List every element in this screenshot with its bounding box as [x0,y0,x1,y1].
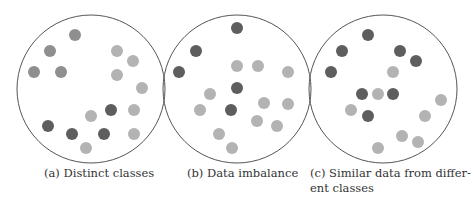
data-point-light [282,98,294,110]
data-point-dark [362,29,374,41]
data-point-dark [362,110,374,122]
data-point-light [372,88,384,100]
caption-c-line-2: ent classes [310,181,471,196]
data-point-light [111,69,123,81]
data-point-dark [387,88,399,100]
data-point-light [282,66,294,78]
data-point-light [251,115,263,127]
data-point-light [435,94,447,106]
figure-canvas [0,0,474,170]
data-point-light [396,130,408,142]
boundary-circle [309,15,457,163]
data-point-medium [28,66,40,78]
data-point-dark [98,128,110,140]
data-point-light [258,97,270,109]
caption-c: (c) Similar data from differ- ent classe… [310,166,471,196]
data-point-light [252,60,264,72]
data-point-dark [231,82,243,94]
data-point-light [271,120,283,132]
data-point-light [345,104,357,116]
data-point-dark [105,104,117,116]
data-point-dark [394,45,406,57]
data-point-light [226,142,238,154]
data-point-medium [55,66,67,78]
data-point-dark [336,45,348,57]
data-point-medium [44,45,56,57]
data-point-medium [69,29,81,41]
data-point-dark [173,66,185,78]
data-point-light [85,110,97,122]
data-point-light [194,104,206,116]
data-point-light [231,60,243,72]
data-point-dark [325,66,337,78]
caption-b: (b) Data imbalance [187,166,298,181]
data-point-light [372,142,384,154]
data-point-dark [225,104,237,116]
data-point-dark [356,88,368,100]
data-point-light [128,128,140,140]
data-point-light [213,128,225,140]
data-point-light [136,82,148,94]
data-point-dark [190,45,202,57]
data-point-dark [66,128,78,140]
panel-c [309,15,457,163]
data-point-dark [42,120,54,132]
data-point-light [111,45,123,57]
caption-a: (a) Distinct classes [44,166,154,181]
data-point-light [204,88,216,100]
data-point-light [419,110,431,122]
data-point-dark [231,22,243,34]
data-point-light [412,136,424,148]
data-point-light [128,104,140,116]
data-point-light [387,66,399,78]
panel-b [163,15,311,163]
panel-a [17,15,165,163]
caption-c-line-1: (c) Similar data from differ- [310,166,471,181]
data-point-dark [410,55,422,67]
data-point-light [127,55,139,67]
data-point-light [80,142,92,154]
